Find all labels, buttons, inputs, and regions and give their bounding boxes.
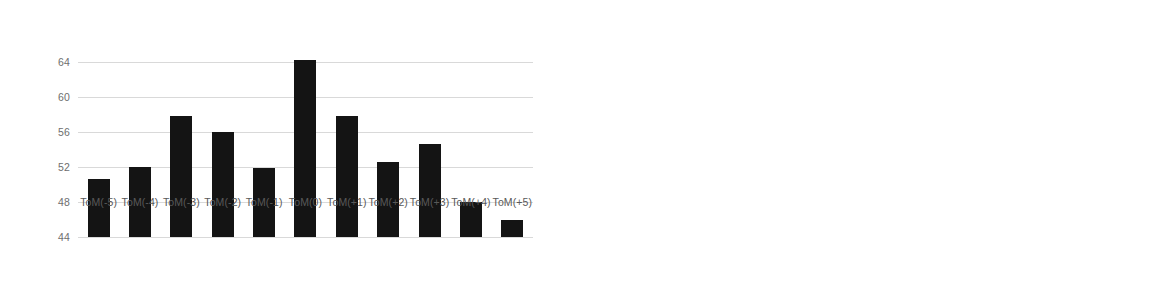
bar[interactable] bbox=[336, 116, 358, 237]
x-axis-tick-label: ToM(+2) bbox=[368, 196, 408, 208]
x-axis-tick-label: ToM(+5) bbox=[493, 196, 533, 208]
x-axis-tick-label: ToM(0) bbox=[289, 196, 322, 208]
bar[interactable] bbox=[170, 116, 192, 237]
y-axis-tick-label: 56 bbox=[58, 126, 78, 138]
y-axis-tick-label: 64 bbox=[58, 56, 78, 68]
figure-container: 444852566064 ToM(-5)ToM(-4)ToM(-3)ToM(-2… bbox=[0, 0, 1156, 283]
gridline bbox=[78, 237, 533, 238]
x-axis-tick-label: ToM(+3) bbox=[410, 196, 450, 208]
x-axis-labels-left: ToM(-5)ToM(-4)ToM(-3)ToM(-2)ToM(-1)ToM(0… bbox=[0, 196, 578, 214]
y-axis-tick-label: 60 bbox=[58, 91, 78, 103]
bar[interactable] bbox=[419, 144, 441, 237]
x-axis-tick-label: ToM(-1) bbox=[246, 196, 283, 208]
chart-panel-right: -0.100.000.100.200.300.40 ToM(-5)ToM(-4)… bbox=[578, 0, 1156, 283]
bar[interactable] bbox=[212, 132, 234, 237]
x-axis-labels-right: ToM(-5)ToM(-4)ToM(-3)ToM(-2)ToM(-1)ToM(0… bbox=[578, 214, 1156, 232]
x-axis-tick-label: ToM(-2) bbox=[204, 196, 241, 208]
chart-panel-left: 444852566064 ToM(-5)ToM(-4)ToM(-3)ToM(-2… bbox=[0, 0, 578, 283]
x-axis-tick-label: ToM(-4) bbox=[122, 196, 159, 208]
x-axis-tick-label: ToM(+4) bbox=[451, 196, 491, 208]
bar[interactable] bbox=[501, 220, 523, 237]
x-axis-tick-label: ToM(-5) bbox=[80, 196, 117, 208]
x-axis-tick-label: ToM(-3) bbox=[163, 196, 200, 208]
y-axis-tick-label: 44 bbox=[58, 231, 78, 243]
x-axis-tick-label: ToM(+1) bbox=[327, 196, 367, 208]
y-axis-tick-label: 52 bbox=[58, 161, 78, 173]
